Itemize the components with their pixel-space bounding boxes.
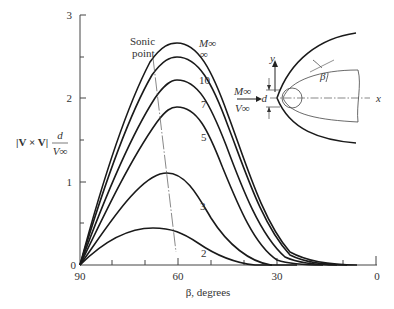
vorticity-chart: 3 2 1 0 90 60 30 0 β, degrees |V × V| d … [0, 0, 394, 309]
label-curve-7: 7 [201, 98, 207, 110]
x-axis-title: β, degrees [186, 286, 231, 298]
label-curve-2: 2 [201, 247, 207, 259]
sonic-label-line1: Sonic [130, 35, 155, 47]
label-curve-3: 3 [200, 200, 206, 212]
curves [80, 43, 357, 265]
curve-M-7 [80, 80, 337, 265]
sonic-label-line2: point [132, 47, 155, 59]
label-curve-5: 5 [201, 131, 207, 143]
y-tick-2: 2 [67, 92, 73, 104]
shock-wave [277, 33, 356, 143]
label-curve-inf: ∞ [200, 48, 208, 60]
y-tick-1: 1 [67, 176, 73, 188]
x-tick-0: 0 [374, 270, 380, 282]
y-axis-title-num: d [57, 129, 63, 141]
y-axis-title-den: V∞ [53, 145, 68, 157]
x-tick-60: 60 [173, 270, 185, 282]
inset-x-label: x [375, 92, 381, 104]
curve-M-inf [80, 43, 357, 265]
inset-d-label: d [262, 92, 268, 104]
curve-M-3 [80, 173, 297, 265]
inset-velocity-label: V∞ [235, 102, 250, 114]
inset-y-label: y [269, 52, 275, 64]
x-tick-90: 90 [75, 270, 87, 282]
y-axis-title-v: |V × V| [16, 136, 48, 148]
curve-M-10 [80, 57, 347, 265]
inset-beta-label: β [319, 70, 326, 82]
y-tick-3: 3 [67, 9, 73, 21]
x-tick-30: 30 [272, 270, 284, 282]
inset-diagram: x y d M∞ V∞ β [233, 33, 381, 143]
curve-M-2 [80, 228, 272, 265]
label-curve-10: 10 [199, 74, 211, 86]
inset-mach-label: M∞ [233, 85, 251, 97]
